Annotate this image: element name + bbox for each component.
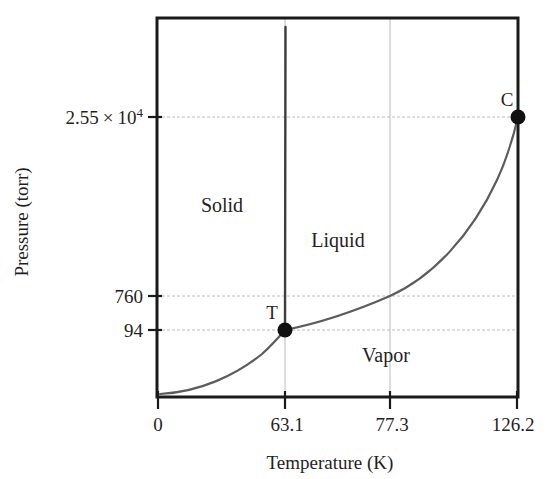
- ytick-label-94: 94: [124, 320, 144, 341]
- ytick-25500-times: ×: [103, 107, 114, 128]
- phase-diagram-figure: T C Solid Liquid Vapor 2.55×104 760 94 0…: [0, 0, 559, 479]
- region-label-liquid: Liquid: [311, 229, 364, 252]
- ytick-25500-exponent: 4: [137, 105, 144, 120]
- y-axis-title: Pressure (torr): [11, 167, 33, 276]
- critical-point-marker[interactable]: [511, 110, 526, 125]
- fusion-curve: [285, 27, 286, 330]
- xtick-label-126-2: 126.2: [492, 414, 535, 435]
- xtick-label-77-3: 77.3: [375, 414, 408, 435]
- triple-point-marker[interactable]: [278, 323, 293, 338]
- phase-diagram-svg: T C Solid Liquid Vapor 2.55×104 760 94 0…: [0, 0, 559, 479]
- ytick-label-25500: 2.55×104: [66, 105, 144, 128]
- critical-point-label: C: [501, 89, 514, 110]
- xtick-label-63-1: 63.1: [270, 414, 303, 435]
- svg-text:2.55×104: 2.55×104: [66, 105, 144, 128]
- x-axis-title: Temperature (K): [267, 452, 394, 474]
- ytick-25500-mantissa: 2.55: [66, 107, 99, 128]
- triple-point-label: T: [266, 302, 278, 323]
- ytick-25500-base: 10: [118, 107, 137, 128]
- xtick-label-0: 0: [153, 414, 163, 435]
- ytick-label-760: 760: [115, 286, 144, 307]
- region-label-vapor: Vapor: [362, 344, 410, 367]
- region-label-solid: Solid: [201, 194, 243, 216]
